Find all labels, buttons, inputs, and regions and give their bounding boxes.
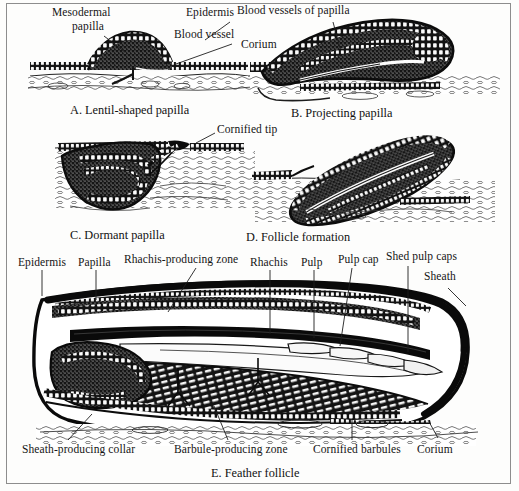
panel-c-artwork	[55, 140, 255, 210]
caption-panel-d: D. Follicle formation	[246, 230, 350, 244]
label-corium-b: Corium	[241, 38, 277, 51]
caption-panel-a: A. Lentil-shaped papilla	[70, 103, 189, 117]
label-epidermis-a: Epidermis	[186, 6, 234, 19]
label-shed-pulp-caps: Shed pulp caps	[386, 250, 457, 263]
caption-panel-c: C. Dormant papilla	[70, 228, 165, 242]
pulp-caps	[288, 343, 442, 375]
label-mesodermal-papilla-line1: Mesodermal	[52, 6, 110, 19]
label-sheath-producing-collar: Sheath-producing collar	[22, 443, 135, 456]
label-epidermis-e: Epidermis	[18, 256, 66, 269]
panel-b-artwork	[248, 20, 500, 101]
label-pulp-cap: Pulp cap	[338, 253, 379, 266]
label-cornified-barbules: Cornified barbules	[313, 443, 401, 456]
caption-panel-b: B. Projecting papilla	[291, 106, 392, 120]
feather-follicle-development-figure: Mesodermal papilla Epidermis Blood vesse…	[0, 0, 519, 491]
label-papilla-e: Papilla	[78, 256, 111, 269]
caption-panel-e: E. Feather follicle	[211, 466, 299, 480]
figure-artwork	[0, 0, 519, 491]
label-blood-vessel-a: Blood vessel	[174, 28, 234, 41]
label-pulp: Pulp	[301, 256, 323, 269]
label-blood-vessels-of-papilla-b: Blood vessels of papilla	[237, 4, 350, 17]
label-barbule-producing-zone: Barbule-producing zone	[174, 443, 288, 456]
label-cornified-tip-c: Cornified tip	[217, 123, 277, 136]
label-corium-e: Corium	[417, 443, 453, 456]
label-sheath: Sheath	[424, 270, 456, 283]
panel-e-artwork	[34, 282, 478, 446]
panel-d-artwork	[252, 122, 495, 242]
label-rhachis-producing-zone: Rhachis-producing zone	[124, 253, 238, 266]
label-mesodermal-papilla-line2: papilla	[72, 20, 104, 33]
label-rhachis: Rhachis	[250, 256, 288, 269]
